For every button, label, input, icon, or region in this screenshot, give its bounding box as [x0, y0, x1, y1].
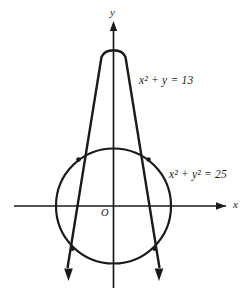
- parabola-left-arrowhead-icon: [64, 269, 73, 282]
- x-axis-label: x: [233, 198, 238, 210]
- y-axis: [110, 21, 117, 288]
- figure-container: x² + y = 13 x² + y² = 25 y x O: [0, 0, 246, 298]
- y-axis-arrowhead-icon: [110, 21, 117, 31]
- circle-equation-label: x² + y² = 25: [169, 168, 227, 180]
- intersection-point-lower-right: [153, 247, 157, 251]
- diagram-canvas: [0, 0, 246, 298]
- y-axis-label: y: [110, 6, 115, 18]
- origin-label: O: [101, 207, 109, 218]
- parabola-equation-label: x² + y = 13: [139, 74, 193, 86]
- intersection-point-upper-left: [76, 157, 81, 162]
- intersection-point-lower-left: [71, 247, 75, 251]
- x-axis-arrowhead-icon: [216, 202, 226, 210]
- parabola-right-arrowhead-icon: [155, 269, 164, 282]
- x-axis: [14, 202, 226, 210]
- intersection-point-upper-right: [146, 157, 151, 162]
